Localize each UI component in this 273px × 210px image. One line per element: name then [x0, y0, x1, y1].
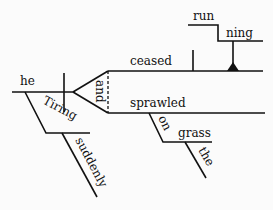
word-ning: ning — [226, 26, 253, 40]
word-run: run — [193, 9, 214, 23]
sentence-diagram: he and ceased run ning sprawled on grass… — [0, 0, 273, 210]
gerund-stand-triangle-icon — [227, 62, 239, 71]
word-ceased: ceased — [130, 54, 172, 68]
word-grass: grass — [178, 126, 211, 140]
word-and: and — [93, 80, 107, 103]
word-sprawled: sprawled — [130, 96, 186, 110]
word-he: he — [20, 74, 35, 88]
word-on: on — [155, 113, 174, 133]
word-tiring: Tiring — [41, 93, 80, 123]
